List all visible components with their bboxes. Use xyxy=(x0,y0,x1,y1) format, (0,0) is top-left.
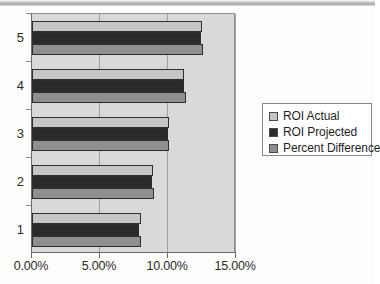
x-axis-tick-label: 10.00% xyxy=(146,259,187,273)
bar-3-series-1 xyxy=(32,128,168,139)
y-axis-tick xyxy=(26,157,31,158)
bars-layer xyxy=(32,14,234,252)
bar-3-series-0 xyxy=(32,117,169,128)
bar-3-series-2 xyxy=(32,140,169,151)
x-axis-line xyxy=(31,252,236,253)
bar-1-series-1 xyxy=(32,224,139,235)
bar-5-series-0 xyxy=(32,21,202,32)
y-axis-tick-label: 1 xyxy=(6,222,24,237)
bar-1-series-2 xyxy=(32,236,141,247)
y-axis-tick xyxy=(26,13,31,14)
gridline xyxy=(235,14,236,252)
x-axis-tick-label: 5.00% xyxy=(82,259,116,273)
y-axis-tick-label: 2 xyxy=(6,174,24,189)
legend-swatch-icon xyxy=(269,144,278,153)
legend-item-label: ROI Actual xyxy=(283,109,339,123)
y-axis-tick xyxy=(26,205,31,206)
x-axis-tick-label: 15.00% xyxy=(214,259,255,273)
y-axis-tick-label: 5 xyxy=(6,30,24,45)
x-axis-tick xyxy=(235,253,236,258)
x-axis-tick xyxy=(99,253,100,258)
bar-2-series-2 xyxy=(32,188,154,199)
bar-4-series-2 xyxy=(32,92,186,103)
y-axis-tick-label: 3 xyxy=(6,126,24,141)
x-axis-tick-label: 0.00% xyxy=(14,259,48,273)
y-axis-tick-label: 4 xyxy=(6,78,24,93)
chart-legend: ROI ActualROI ProjectedPercent Differenc… xyxy=(262,103,372,156)
x-axis-tick xyxy=(31,253,32,258)
legend-item-2[interactable]: Percent Difference xyxy=(269,140,371,156)
legend-swatch-icon xyxy=(269,128,278,137)
bar-4-series-1 xyxy=(32,80,184,91)
y-axis-tick xyxy=(26,109,31,110)
legend-item-label: Percent Difference xyxy=(283,141,380,155)
bar-5-series-1 xyxy=(32,32,201,43)
bar-5-series-2 xyxy=(32,44,203,55)
bar-2-series-1 xyxy=(32,176,152,187)
y-axis-tick xyxy=(26,61,31,62)
plot-area xyxy=(31,13,235,253)
legend-item-label: ROI Projected xyxy=(283,125,357,139)
y-axis-line xyxy=(31,13,32,253)
bar-2-series-0 xyxy=(32,165,153,176)
bar-4-series-0 xyxy=(32,69,184,80)
x-axis-tick xyxy=(167,253,168,258)
legend-item-0[interactable]: ROI Actual xyxy=(269,108,371,124)
legend-item-1[interactable]: ROI Projected xyxy=(269,124,371,140)
legend-swatch-icon xyxy=(269,112,278,121)
bar-1-series-0 xyxy=(32,213,141,224)
